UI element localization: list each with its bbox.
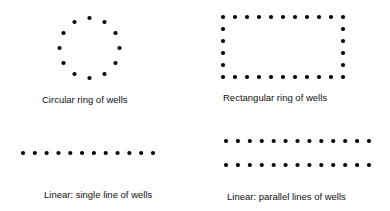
well-dot — [281, 75, 285, 79]
well-dot — [61, 61, 65, 65]
single-line-wells — [21, 151, 155, 155]
well-dot — [343, 139, 347, 143]
well-dot — [319, 163, 323, 167]
well-dot — [245, 15, 249, 19]
well-dot — [272, 139, 276, 143]
well-arrangement-diagram — [0, 0, 390, 211]
well-dot — [221, 27, 225, 31]
circular-ring-label: Circular ring of wells — [42, 95, 128, 105]
well-dot — [221, 51, 225, 55]
well-dot — [319, 139, 323, 143]
well-dot — [295, 139, 299, 143]
well-dot — [341, 27, 345, 31]
well-dot — [293, 75, 297, 79]
well-dot — [355, 139, 359, 143]
well-dot — [367, 139, 371, 143]
well-dot — [45, 151, 49, 155]
well-dot — [21, 151, 25, 155]
well-dot — [355, 163, 359, 167]
well-dot — [331, 139, 335, 143]
well-dot — [283, 163, 287, 167]
well-dot — [87, 76, 91, 80]
well-dot — [331, 163, 335, 167]
rectangular-ring-wells — [221, 15, 345, 79]
well-dot — [341, 75, 345, 79]
well-dot — [68, 151, 72, 155]
well-dot — [269, 15, 273, 19]
well-dot — [104, 151, 108, 155]
well-dot — [221, 39, 225, 43]
well-dot — [87, 16, 91, 20]
well-dot — [329, 75, 333, 79]
well-dot — [61, 31, 65, 35]
well-dot — [248, 139, 252, 143]
well-dot — [329, 15, 333, 19]
well-dot — [92, 151, 96, 155]
well-dot — [260, 163, 264, 167]
parallel-lines-wells — [224, 139, 371, 167]
well-dot — [248, 163, 252, 167]
well-dot — [236, 139, 240, 143]
well-dot — [221, 63, 225, 67]
well-dot — [72, 20, 76, 24]
well-dot — [245, 75, 249, 79]
well-dot — [272, 163, 276, 167]
well-dot — [102, 20, 106, 24]
well-dot — [317, 75, 321, 79]
well-dot — [113, 61, 117, 65]
well-dot — [293, 15, 297, 19]
well-dot — [117, 46, 121, 50]
well-dot — [305, 75, 309, 79]
circular-ring-wells — [57, 16, 121, 80]
well-dot — [221, 15, 225, 19]
well-dot — [80, 151, 84, 155]
well-dot — [269, 75, 273, 79]
well-dot — [57, 46, 61, 50]
well-dot — [367, 163, 371, 167]
single-line-label: Linear: single line of wells — [44, 190, 152, 200]
well-dot — [341, 39, 345, 43]
well-dot — [307, 139, 311, 143]
well-dot — [221, 75, 225, 79]
well-dot — [281, 15, 285, 19]
well-dot — [151, 151, 155, 155]
well-dot — [343, 163, 347, 167]
rectangular-ring-label: Rectangular ring of wells — [223, 93, 327, 103]
well-dot — [341, 63, 345, 67]
well-dot — [56, 151, 60, 155]
well-dot — [102, 72, 106, 76]
well-dot — [295, 163, 299, 167]
well-dot — [305, 15, 309, 19]
well-dot — [113, 31, 117, 35]
well-dot — [283, 139, 287, 143]
well-dot — [233, 15, 237, 19]
well-dot — [341, 51, 345, 55]
well-dot — [257, 75, 261, 79]
well-dot — [139, 151, 143, 155]
well-dot — [224, 139, 228, 143]
well-dot — [127, 151, 131, 155]
parallel-lines-label: Linear: parallel lines of wells — [227, 192, 346, 202]
well-dot — [317, 15, 321, 19]
well-dot — [72, 72, 76, 76]
well-dot — [260, 139, 264, 143]
well-dot — [341, 15, 345, 19]
well-dot — [224, 163, 228, 167]
well-dot — [236, 163, 240, 167]
well-dot — [307, 163, 311, 167]
well-dot — [233, 75, 237, 79]
well-dot — [115, 151, 119, 155]
well-dot — [257, 15, 261, 19]
well-dot — [33, 151, 37, 155]
